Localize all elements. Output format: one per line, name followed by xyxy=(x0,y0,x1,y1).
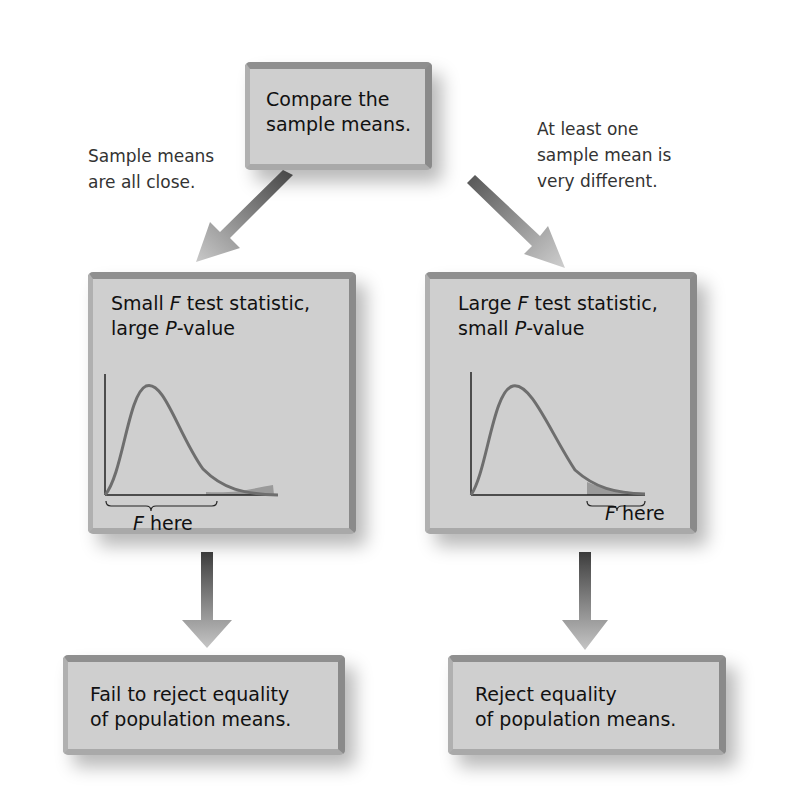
small-f-panel: Small F test statistic, large P-value F … xyxy=(88,272,356,534)
bottom-left-line1: Fail to reject equality xyxy=(90,682,291,707)
bottom-right-line2: of population means. xyxy=(475,707,676,732)
fail-to-reject-box: Fail to reject equality of population me… xyxy=(63,655,345,755)
bottom-right-line1: Reject equality xyxy=(475,682,676,707)
right-panel-subtitle: small P-value xyxy=(458,316,658,341)
right-panel-title: Large F test statistic, xyxy=(458,291,658,316)
bottom-left-line2: of population means. xyxy=(90,707,291,732)
f-distribution-curve-right xyxy=(465,372,665,502)
left-panel-title: Small F test statistic, xyxy=(111,291,310,316)
left-f-here-label: F here xyxy=(133,511,193,536)
right-f-here-label: F here xyxy=(605,501,665,526)
reject-box: Reject equality of population means. xyxy=(448,655,726,755)
left-panel-subtitle: large P-value xyxy=(111,316,310,341)
large-f-panel: Large F test statistic, small P-value F … xyxy=(425,272,697,534)
f-distribution-curve-left xyxy=(98,374,298,504)
